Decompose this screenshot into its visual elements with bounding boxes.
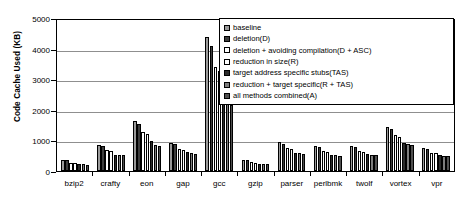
bar [278, 142, 281, 171]
bar [430, 153, 433, 171]
bar [402, 143, 405, 171]
bar [114, 155, 117, 171]
bar [182, 150, 185, 171]
bar [314, 146, 317, 171]
legend-item: target address specific stubs(TAS) [224, 68, 449, 79]
legend-swatch [224, 70, 230, 76]
bar [322, 151, 325, 171]
bar [105, 150, 108, 171]
bar [298, 153, 301, 171]
bar [137, 124, 140, 171]
x-axis: bzip2craftyeongapgccgzipparserperlbmktwo… [56, 172, 455, 200]
bar [194, 154, 197, 171]
bar [150, 141, 153, 171]
legend-item: all methods combined(A) [224, 90, 449, 101]
bar [358, 151, 361, 171]
bar [118, 155, 121, 171]
bar [302, 154, 305, 171]
x-tick-label: crafty [92, 179, 128, 188]
bar [446, 156, 449, 171]
x-tick-label: perlbmk [310, 179, 346, 188]
x-tick-mark [382, 172, 383, 176]
bar [214, 67, 217, 171]
bar [262, 164, 265, 171]
bar [426, 149, 429, 171]
x-tick-mark [165, 172, 166, 176]
legend-item: deletion(D) [224, 33, 449, 44]
legend-item: reduction in size(R) [224, 56, 449, 67]
bar [61, 160, 64, 171]
bar-chart: Code Cache Used (KB) 0100020003000400050… [0, 0, 465, 200]
bar [250, 162, 253, 171]
legend-item: deletion + avoiding compilation(D + ASC) [224, 45, 449, 56]
bar [266, 164, 269, 171]
legend-label: baseline [233, 24, 261, 32]
bar [178, 149, 181, 171]
bar [154, 145, 157, 171]
bar [101, 146, 104, 171]
bar [286, 148, 289, 171]
x-tick-mark [274, 172, 275, 176]
bar [366, 154, 369, 171]
legend-swatch [224, 59, 230, 65]
legend-label: deletion + avoiding compilation(D + ASC) [233, 47, 371, 55]
x-tick-label: gcc [201, 179, 237, 188]
y-tick-label: 1000 [32, 137, 50, 146]
bar [226, 99, 229, 171]
bar-group [133, 20, 161, 171]
x-tick-mark [419, 172, 420, 176]
legend-swatch [224, 36, 230, 42]
bar [394, 135, 397, 171]
x-axis-labels: bzip2craftyeongapgccgzipparserperlbmktwo… [56, 179, 455, 188]
x-tick-label: vpr [419, 179, 455, 188]
bar [374, 155, 377, 171]
legend-label: reduction + target specific(R + TAS) [233, 81, 353, 89]
bar [282, 144, 285, 171]
x-tick-mark [129, 172, 130, 176]
bar [442, 156, 445, 171]
legend-swatch [224, 93, 230, 99]
bar [69, 163, 72, 171]
bar [97, 145, 100, 171]
bar [230, 105, 233, 171]
y-tick-label: 4000 [32, 45, 50, 54]
bar [422, 148, 425, 171]
x-tick-mark [310, 172, 311, 176]
legend-item: reduction + target specific(R + TAS) [224, 79, 449, 90]
bar-group [169, 20, 197, 171]
bar [210, 46, 213, 171]
x-tick-label: twolf [346, 179, 382, 188]
bar [390, 129, 393, 171]
legend-swatch [224, 47, 230, 53]
bar-group [97, 20, 125, 171]
x-tick-label: parser [274, 179, 310, 188]
bar [386, 127, 389, 171]
bar [169, 143, 172, 171]
x-tick-mark [237, 172, 238, 176]
bar [158, 146, 161, 171]
bar [173, 144, 176, 171]
bar-group [61, 20, 89, 171]
bar [242, 160, 245, 171]
x-tick-label: gzip [237, 179, 273, 188]
y-tick-label: 0 [46, 168, 50, 177]
y-tick-label: 3000 [32, 76, 50, 85]
x-tick-mark [92, 172, 93, 176]
x-tick-label: gap [165, 179, 201, 188]
bar [77, 164, 80, 171]
x-tick-label: vortex [382, 179, 418, 188]
y-tick-label: 2000 [32, 106, 50, 115]
bar [186, 152, 189, 171]
legend-swatch [224, 25, 230, 31]
bar [109, 151, 112, 171]
bar [133, 121, 136, 171]
bar [254, 163, 257, 171]
bar [65, 160, 68, 171]
bar [290, 149, 293, 171]
bar [370, 155, 373, 171]
bar [326, 152, 329, 171]
bar [141, 132, 144, 171]
bar [338, 156, 341, 171]
bar [246, 160, 249, 171]
bar [334, 155, 337, 171]
